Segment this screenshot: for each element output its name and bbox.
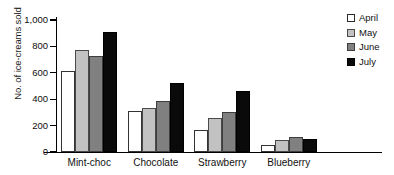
bar-july-chocolate bbox=[170, 83, 184, 152]
bar-june-mint-choc bbox=[89, 56, 103, 152]
bar-may-strawberry bbox=[208, 118, 222, 152]
bar-july-blueberry bbox=[303, 139, 317, 152]
bar-june-strawberry bbox=[222, 112, 236, 152]
bar-may-blueberry bbox=[275, 140, 289, 152]
y-axis-tick-label: 1,000 bbox=[6, 15, 48, 25]
y-axis-tick-label: 0 bbox=[6, 147, 48, 157]
legend-item-may[interactable]: May bbox=[347, 26, 393, 41]
chart-legend: AprilMayJuneJuly bbox=[347, 11, 393, 69]
bar-april-strawberry bbox=[194, 130, 208, 152]
legend-item-july[interactable]: July bbox=[347, 55, 393, 70]
bar-july-mint-choc bbox=[103, 32, 117, 152]
legend-item-june[interactable]: June bbox=[347, 40, 393, 55]
bar-june-chocolate bbox=[156, 101, 170, 152]
x-axis-line bbox=[44, 152, 382, 153]
legend-label: May bbox=[359, 28, 377, 38]
plot-area bbox=[56, 20, 322, 152]
legend-swatch-april-icon bbox=[347, 14, 355, 22]
y-axis-tick-label: 400 bbox=[6, 94, 48, 104]
legend-swatch-june-icon bbox=[347, 43, 355, 51]
bar-may-mint-choc bbox=[75, 50, 89, 152]
legend-item-april[interactable]: April bbox=[347, 11, 393, 26]
bar-june-blueberry bbox=[289, 137, 303, 152]
legend-swatch-may-icon bbox=[347, 29, 355, 37]
legend-label: July bbox=[359, 57, 376, 67]
legend-label: June bbox=[359, 42, 380, 52]
bar-april-blueberry bbox=[261, 145, 275, 152]
bar-may-chocolate bbox=[142, 108, 156, 152]
y-axis-tick-label: 200 bbox=[6, 121, 48, 131]
bar-april-mint-choc bbox=[61, 71, 75, 152]
bar-april-chocolate bbox=[128, 111, 142, 152]
x-axis-label-blueberry: Blueberry bbox=[244, 157, 334, 168]
y-axis-tick-label: 800 bbox=[6, 41, 48, 51]
legend-label: April bbox=[359, 13, 378, 23]
y-axis-tick-label: 600 bbox=[6, 68, 48, 78]
legend-swatch-july-icon bbox=[347, 58, 355, 66]
bar-july-strawberry bbox=[236, 91, 250, 152]
bar-chart: No. of ice-creams sold 02004006008001,00… bbox=[0, 0, 394, 175]
